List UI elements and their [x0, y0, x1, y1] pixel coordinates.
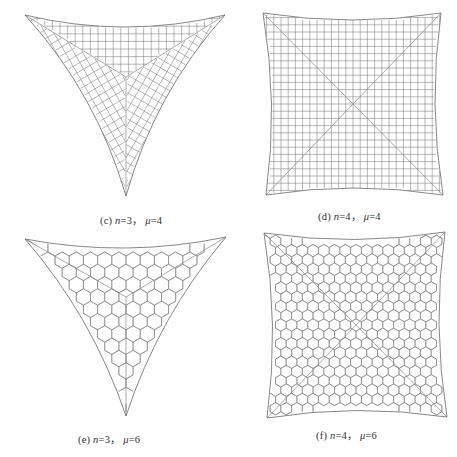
caption-n-value: =3 [121, 215, 133, 226]
caption-label: (c) [100, 215, 112, 226]
caption-mu-value: =6 [365, 430, 377, 441]
panel-e-triangle-hexagon-mesh [25, 237, 226, 416]
caption-n-value: =4 [335, 430, 347, 441]
caption-n-value: =3 [99, 434, 111, 445]
caption-mu-value: =4 [369, 211, 381, 222]
caption-mu-value: =6 [129, 434, 141, 445]
caption-panel-f: (f) n=4， μ=6 [316, 427, 377, 442]
caption-label: (f) [316, 430, 327, 441]
caption-label: (d) [318, 211, 331, 222]
caption-label: (e) [78, 434, 90, 445]
panel-f-square-hexagon-mesh [264, 232, 447, 418]
caption-n-value: =4 [339, 211, 351, 222]
caption-separator: ， [110, 434, 120, 445]
caption-panel-c: (c) n=3， μ=4 [100, 212, 162, 227]
caption-panel-e: (e) n=3， μ=6 [78, 431, 140, 446]
caption-separator: ， [132, 215, 142, 226]
caption-mu-value: =4 [151, 215, 163, 226]
caption-panel-d: (d) n=4， μ=4 [318, 208, 381, 223]
figure-canvas [0, 0, 457, 457]
caption-separator: ， [351, 211, 361, 222]
caption-separator: ， [347, 430, 357, 441]
panel-d-square-square-mesh [263, 13, 443, 195]
panel-c-triangle-square-mesh [25, 15, 225, 196]
